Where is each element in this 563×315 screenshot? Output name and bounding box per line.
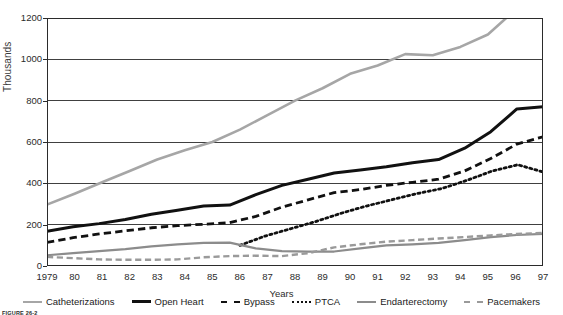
x-tick-label: 92	[390, 271, 420, 282]
y-tick-label: 400	[8, 177, 42, 188]
legend-swatch-icon	[357, 301, 376, 303]
y-tick-mark	[43, 225, 47, 226]
y-axis-title: Thousands	[2, 42, 13, 92]
y-tick-mark	[43, 18, 47, 19]
figure-container: Thousands Years CatheterizationsOpen Hea…	[0, 0, 563, 315]
legend-label: Pacemakers	[487, 297, 540, 307]
legend-swatch-icon	[292, 301, 311, 303]
y-tick-label: 1000	[8, 53, 42, 64]
plot-area	[47, 18, 543, 266]
x-tick-label: 87	[252, 271, 282, 282]
x-tick-label: 91	[363, 271, 393, 282]
y-tick-mark	[43, 101, 47, 102]
x-tick-label: 80	[60, 271, 90, 282]
x-tick-label: 85	[197, 271, 227, 282]
legend-swatch-icon	[221, 301, 240, 303]
series-line-pacemakers	[47, 233, 543, 260]
x-tick-label: 93	[418, 271, 448, 282]
series-lines	[47, 18, 543, 260]
figure-caption: FIGURE 26-2	[2, 310, 38, 315]
legend-swatch-icon	[23, 301, 42, 303]
y-tick-label: 200	[8, 219, 42, 230]
y-tick-label: 800	[8, 95, 42, 106]
x-tick-label: 86	[225, 271, 255, 282]
x-tick-label: 1979	[32, 271, 62, 282]
legend-item-bypass[interactable]: Bypass	[221, 297, 275, 307]
legend-item-endarterectomy[interactable]: Endarterectomy	[357, 297, 447, 307]
legend-label: Catheterizations	[46, 297, 115, 307]
legend-label: Open Heart	[155, 297, 204, 307]
x-tick-label: 89	[308, 271, 338, 282]
x-tick-label: 82	[115, 271, 145, 282]
x-tick-label: 83	[142, 271, 172, 282]
y-tick-label: 1200	[8, 12, 42, 23]
x-tick-label: 94	[445, 271, 475, 282]
legend-label: Endarterectomy	[380, 297, 447, 307]
legend-item-catheterizations[interactable]: Catheterizations	[23, 297, 115, 307]
line-chart-svg	[47, 18, 543, 266]
chart-legend: CatheterizationsOpen HeartBypassPTCAEnda…	[0, 297, 563, 307]
x-tick-label: 95	[473, 271, 503, 282]
x-tick-label: 97	[528, 271, 558, 282]
legend-item-ptca[interactable]: PTCA	[292, 297, 340, 307]
series-line-catheterizations	[47, 18, 543, 205]
legend-label: PTCA	[315, 297, 340, 307]
y-tick-mark	[43, 59, 47, 60]
legend-swatch-icon	[132, 300, 151, 303]
y-tick-mark	[43, 183, 47, 184]
x-tick-label: 81	[87, 271, 117, 282]
y-tick-mark	[43, 142, 47, 143]
legend-swatch-icon	[464, 301, 483, 303]
legend-item-pacemakers[interactable]: Pacemakers	[464, 297, 540, 307]
x-tick-label: 90	[335, 271, 365, 282]
y-tick-label: 0	[8, 260, 42, 271]
x-tick-label: 96	[500, 271, 530, 282]
gridlines	[47, 18, 543, 266]
y-tick-label: 600	[8, 136, 42, 147]
x-tick-label: 84	[170, 271, 200, 282]
x-tick-label: 88	[280, 271, 310, 282]
legend-label: Bypass	[244, 297, 275, 307]
y-tick-mark	[43, 266, 47, 267]
legend-item-open-heart[interactable]: Open Heart	[132, 297, 204, 307]
